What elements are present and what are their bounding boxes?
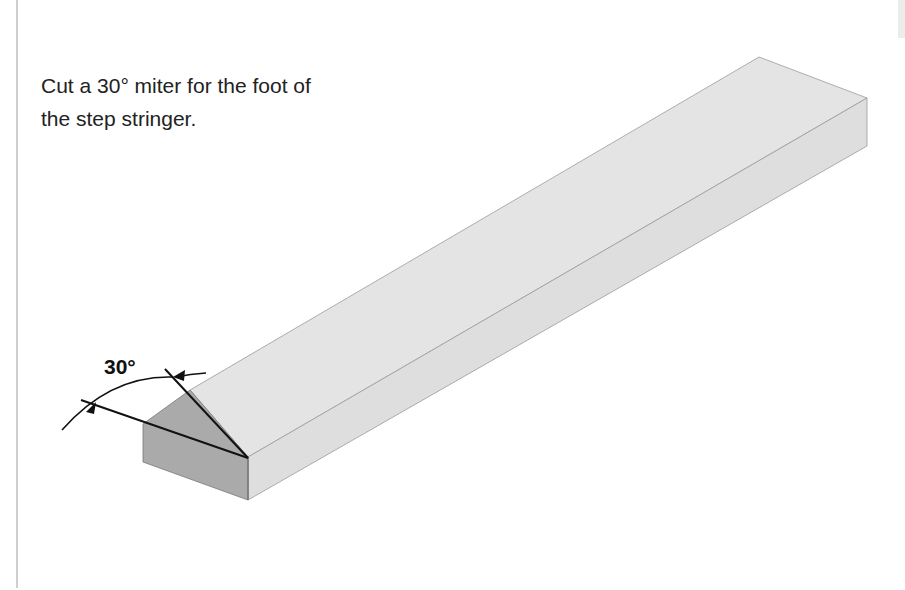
board-side-face [248,98,867,500]
board-top-face [190,57,867,457]
angle-label: 30° [104,355,136,378]
stringer-miter-diagram: 30° [0,0,905,590]
